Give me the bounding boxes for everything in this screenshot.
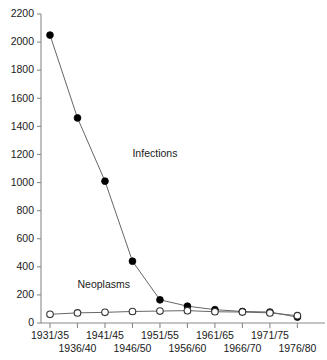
data-point-infections (74, 115, 81, 122)
data-point-infections (47, 32, 54, 39)
data-point-neoplasms (47, 311, 54, 318)
annotation-label: Neoplasms (77, 278, 130, 290)
x-tick-label: 1971/75 (251, 329, 289, 341)
data-point-infections (129, 258, 136, 265)
x-tick-label: 1946/50 (113, 342, 151, 354)
x-tick-label: 1966/70 (223, 342, 261, 354)
data-point-neoplasms (157, 308, 164, 315)
line-chart: 0200400600800100012001400160018002000220… (0, 0, 327, 360)
y-tick-label: 1400 (11, 120, 35, 132)
data-point-neoplasms (129, 308, 136, 315)
annotation-label: Infections (132, 147, 177, 159)
data-point-neoplasms (239, 309, 246, 316)
data-point-infections (102, 178, 109, 185)
data-point-neoplasms (102, 309, 109, 316)
x-tick-label: 1976/80 (278, 342, 316, 354)
data-point-neoplasms (212, 308, 219, 315)
data-point-neoplasms (74, 310, 81, 317)
data-point-neoplasms (184, 307, 191, 314)
data-point-neoplasms (294, 312, 301, 319)
chart-container: 0200400600800100012001400160018002000220… (0, 0, 327, 360)
y-tick-label: 1600 (11, 92, 35, 104)
x-tick-label: 1931/35 (31, 329, 69, 341)
x-tick-label: 1956/60 (168, 342, 206, 354)
y-tick-label: 200 (16, 288, 34, 300)
y-tick-label: 2200 (11, 7, 35, 19)
x-tick-label: 1951/55 (141, 329, 179, 341)
y-tick-label: 1000 (11, 176, 35, 188)
x-tick-label: 1941/45 (86, 329, 124, 341)
data-point-infections (157, 296, 164, 303)
y-tick-label: 800 (16, 204, 34, 216)
data-point-neoplasms (267, 310, 274, 317)
y-tick-label: 600 (16, 232, 34, 244)
x-tick-label: 1936/40 (59, 342, 97, 354)
y-tick-label: 400 (16, 260, 34, 272)
y-tick-label: 1800 (11, 63, 35, 75)
y-tick-label: 2000 (11, 35, 35, 47)
y-tick-label: 0 (28, 316, 34, 328)
y-tick-label: 1200 (11, 148, 35, 160)
chart-background (0, 0, 327, 360)
x-tick-label: 1961/65 (196, 329, 234, 341)
